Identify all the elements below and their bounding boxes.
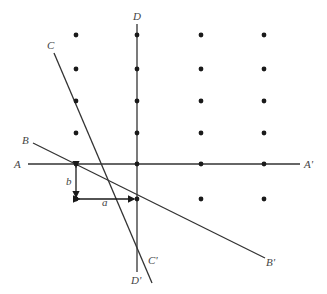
lattice-points xyxy=(74,33,267,202)
lattice-point xyxy=(199,197,204,202)
lattice-point xyxy=(135,99,140,104)
label-c: C xyxy=(47,39,55,51)
lattice-point xyxy=(262,99,267,104)
lattice-point xyxy=(74,33,79,38)
lattice-point xyxy=(262,33,267,38)
lattice-point xyxy=(199,131,204,136)
lattice-point xyxy=(135,131,140,136)
lattice-diagram: DCBAA'B'C'D'ba xyxy=(0,0,327,294)
line-b xyxy=(33,143,265,258)
lattice-point xyxy=(199,99,204,104)
label-d-prime: D' xyxy=(130,274,142,286)
label-b: b xyxy=(66,175,72,187)
lattice-point xyxy=(262,131,267,136)
label-b-prime: B' xyxy=(266,256,276,268)
lattice-point xyxy=(262,67,267,72)
lattice-point xyxy=(135,197,140,202)
label-a-prime: A' xyxy=(303,158,314,170)
label-b: B xyxy=(22,134,29,146)
lattice-point xyxy=(262,162,267,167)
label-c-prime: C' xyxy=(148,254,158,266)
label-d: D xyxy=(132,10,141,22)
lattice-point xyxy=(199,67,204,72)
lattice-point xyxy=(262,197,267,202)
lattice-point xyxy=(74,197,79,202)
lattice-point xyxy=(199,162,204,167)
lattice-point xyxy=(135,162,140,167)
label-a: A xyxy=(13,158,21,170)
lattice-point xyxy=(135,33,140,38)
lines xyxy=(28,24,300,283)
lattice-point xyxy=(74,162,79,167)
label-a: a xyxy=(102,196,108,208)
lattice-point xyxy=(74,67,79,72)
lattice-point xyxy=(199,33,204,38)
lattice-point xyxy=(74,99,79,104)
lattice-point xyxy=(135,67,140,72)
labels: DCBAA'B'C'D'ba xyxy=(13,10,314,286)
lattice-point xyxy=(74,131,79,136)
